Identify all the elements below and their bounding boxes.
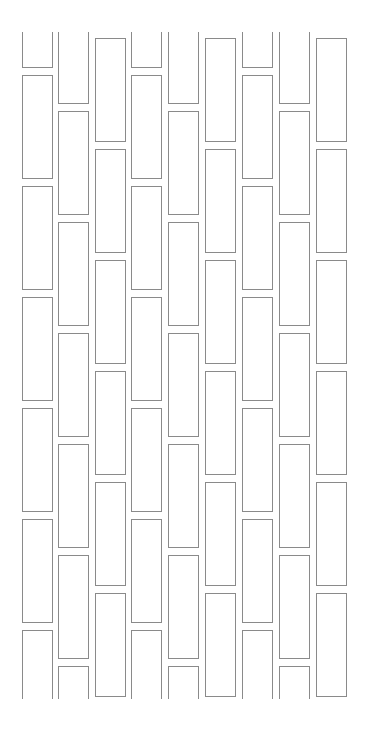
brick bbox=[168, 666, 199, 699]
brick bbox=[95, 260, 126, 364]
brick bbox=[58, 222, 89, 326]
brick bbox=[95, 482, 126, 586]
brick bbox=[22, 408, 53, 512]
brick bbox=[242, 75, 273, 179]
brick bbox=[131, 630, 162, 699]
brick bbox=[242, 297, 273, 401]
brick bbox=[168, 111, 199, 215]
brick bbox=[205, 482, 236, 586]
brick bbox=[22, 519, 53, 623]
brick-pattern bbox=[0, 32, 381, 699]
brick bbox=[205, 593, 236, 697]
brick bbox=[58, 555, 89, 659]
brick bbox=[58, 444, 89, 548]
brick bbox=[279, 222, 310, 326]
brick bbox=[316, 38, 347, 142]
brick bbox=[95, 371, 126, 475]
brick bbox=[205, 371, 236, 475]
brick bbox=[279, 111, 310, 215]
brick bbox=[242, 32, 273, 68]
brick bbox=[242, 519, 273, 623]
brick bbox=[22, 297, 53, 401]
brick bbox=[242, 408, 273, 512]
brick bbox=[95, 38, 126, 142]
brick bbox=[131, 408, 162, 512]
brick bbox=[22, 32, 53, 68]
brick bbox=[279, 333, 310, 437]
brick bbox=[205, 149, 236, 253]
brick bbox=[95, 593, 126, 697]
brick bbox=[242, 630, 273, 699]
brick bbox=[131, 186, 162, 290]
brick bbox=[58, 666, 89, 699]
brick bbox=[22, 75, 53, 179]
brick bbox=[22, 630, 53, 699]
brick bbox=[58, 111, 89, 215]
brick bbox=[205, 260, 236, 364]
brick bbox=[316, 149, 347, 253]
brick bbox=[168, 555, 199, 659]
brick bbox=[95, 149, 126, 253]
brick bbox=[316, 593, 347, 697]
brick bbox=[279, 666, 310, 699]
brick bbox=[242, 186, 273, 290]
brick bbox=[131, 75, 162, 179]
brick bbox=[168, 333, 199, 437]
brick bbox=[205, 38, 236, 142]
brick bbox=[22, 186, 53, 290]
brick bbox=[168, 222, 199, 326]
brick bbox=[316, 482, 347, 586]
brick bbox=[58, 32, 89, 104]
brick bbox=[316, 371, 347, 475]
brick bbox=[279, 444, 310, 548]
brick bbox=[131, 297, 162, 401]
brick bbox=[279, 32, 310, 104]
brick bbox=[279, 555, 310, 659]
brick bbox=[131, 519, 162, 623]
brick bbox=[168, 444, 199, 548]
brick bbox=[131, 32, 162, 68]
brick bbox=[168, 32, 199, 104]
brick bbox=[58, 333, 89, 437]
brick bbox=[316, 260, 347, 364]
